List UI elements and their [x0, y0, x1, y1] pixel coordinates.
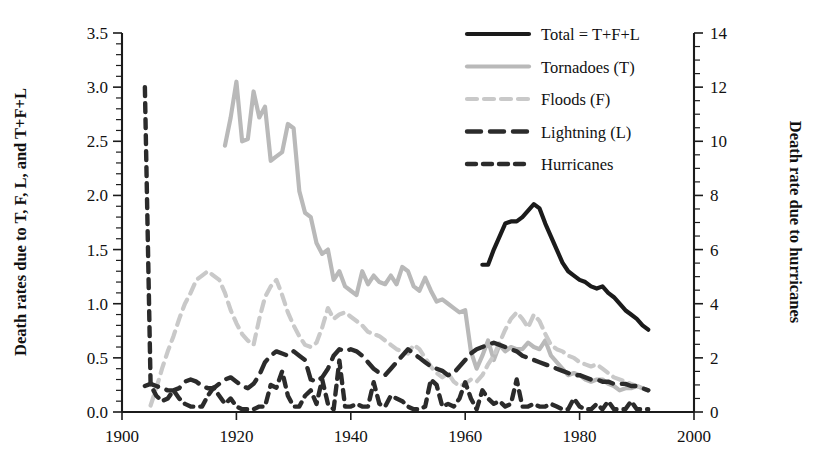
y-axis-right-tick-label: 0 [710, 403, 719, 422]
x-axis-tick-label: 1940 [334, 427, 368, 446]
legend-label: Tornadoes (T) [541, 58, 635, 77]
y-axis-right-tick-label: 12 [710, 78, 727, 97]
y-axis-left-tick-label: 2.0 [87, 186, 108, 205]
chart-svg: 0.00.51.01.52.02.53.03.50246810121419001… [0, 0, 819, 475]
y-axis-right-tick-label: 6 [710, 241, 719, 260]
y-axis-left-tick-label: 3.5 [87, 24, 108, 43]
chart-container: 0.00.51.01.52.02.53.03.50246810121419001… [0, 0, 819, 475]
y-axis-right-tick-label: 2 [710, 349, 719, 368]
legend-label: Total = T+F+L [541, 25, 640, 44]
y-axis-left-tick-label: 3.0 [87, 78, 108, 97]
y-axis-right-tick-label: 10 [710, 132, 727, 151]
y-axis-right-tick-label: 14 [710, 24, 728, 43]
y-axis-left-tick-label: 1.5 [87, 241, 108, 260]
legend-label: Floods (F) [541, 90, 610, 109]
y-axis-left-tick-label: 1.0 [87, 295, 108, 314]
legend-label: Hurricanes [541, 155, 613, 174]
x-axis-tick-label: 1980 [563, 427, 597, 446]
y-axis-left-title: Death rates due to T, F, L, and T+F+L [11, 88, 30, 356]
y-axis-right-tick-label: 8 [710, 186, 719, 205]
x-axis-tick-label: 2000 [677, 427, 711, 446]
x-axis-tick-label: 1960 [448, 427, 482, 446]
y-axis-left-tick-label: 2.5 [87, 132, 108, 151]
legend-label: Lightning (L) [541, 123, 631, 142]
y-axis-right-tick-label: 4 [710, 295, 719, 314]
x-axis-tick-label: 1920 [219, 427, 253, 446]
y-axis-left-tick-label: 0.0 [87, 403, 108, 422]
y-axis-right-title: Death rate due to hurricanes [786, 121, 805, 324]
y-axis-left-tick-label: 0.5 [87, 349, 108, 368]
x-axis-tick-label: 1900 [105, 427, 139, 446]
